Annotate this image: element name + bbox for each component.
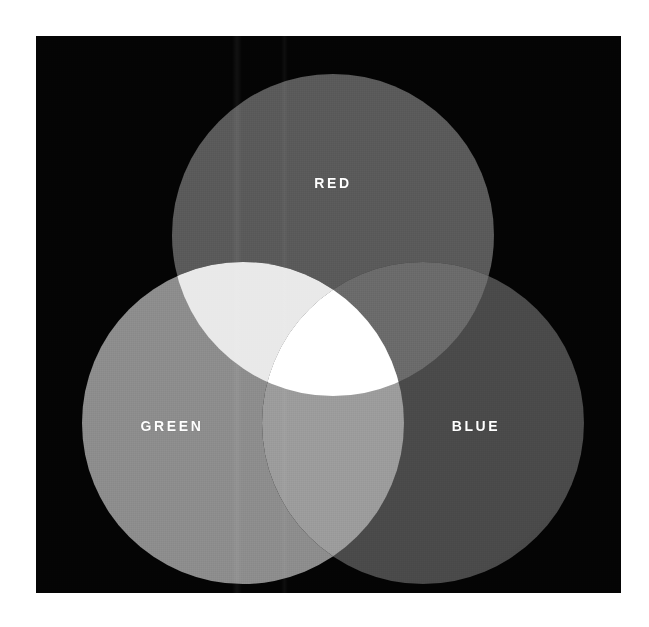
venn-diagram xyxy=(36,36,621,593)
venn-label-blue: BLUE xyxy=(452,419,501,433)
venn-label-red: RED xyxy=(314,176,351,190)
diagram-plate: RED GREEN BLUE xyxy=(36,36,621,593)
figure-canvas: RED GREEN BLUE xyxy=(0,0,649,627)
venn-label-green: GREEN xyxy=(141,419,204,433)
